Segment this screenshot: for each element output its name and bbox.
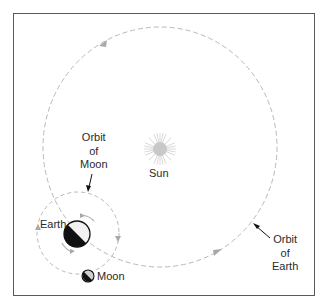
moon-icon: [82, 270, 94, 282]
earth-orbit-arrow-icon: [213, 249, 222, 256]
sun-icon: [144, 133, 176, 165]
earth-rotation-arrow-icon: [70, 249, 75, 254]
orbit-of-moon-label: Orbit of Moon: [80, 131, 108, 172]
moon-label: Moon: [97, 270, 125, 284]
orbit-of-moon-pointer-icon: [86, 174, 92, 192]
moon-orbit-arrow-icon: [115, 236, 121, 242]
sun-label: Sun: [149, 167, 169, 181]
orbit-of-earth-pointer-icon: [253, 223, 270, 238]
orbit-of-earth-label: Orbit of Earth: [272, 233, 298, 274]
earth-icon: [64, 221, 90, 247]
earth-orbit-arrow-icon: [99, 40, 107, 47]
earth-label: Earth: [40, 218, 66, 232]
